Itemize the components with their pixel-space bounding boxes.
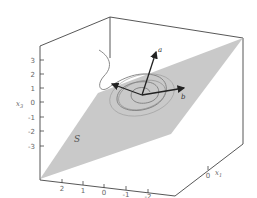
vector-b-label: b	[181, 93, 186, 101]
svg-text:3: 3	[31, 57, 35, 65]
x1-axis-label: x1	[215, 169, 222, 178]
svg-text:0: 0	[102, 189, 106, 197]
svg-text:-3: -3	[28, 143, 35, 151]
plane-label: S	[74, 134, 80, 144]
3d-figure: a b S 3 2 1 0 -1 -2 -3 x3 2 1 0	[0, 0, 257, 198]
svg-text:2: 2	[60, 185, 64, 193]
svg-text:-2: -2	[28, 128, 35, 136]
svg-text:-1: -1	[28, 114, 35, 122]
vector-a-label: a	[158, 46, 162, 54]
x3-axis-ticks	[40, 60, 44, 146]
x1-tick-label: 0	[206, 172, 210, 180]
x3-tick-labels: 3 2 1 0 -1 -2 -3	[28, 57, 35, 151]
svg-text:-1: -1	[123, 191, 130, 198]
x3-axis-label: x3	[16, 100, 23, 109]
svg-text:1: 1	[81, 187, 85, 195]
svg-text:-2: -2	[145, 193, 152, 198]
svg-text:0: 0	[31, 99, 35, 107]
svg-text:1: 1	[31, 85, 35, 93]
plane-s	[40, 38, 243, 179]
svg-text:2: 2	[31, 71, 35, 79]
